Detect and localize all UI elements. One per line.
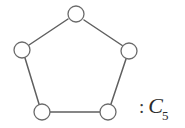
label-colon-separator: : — [139, 96, 144, 117]
vertex-lower-left — [34, 104, 50, 120]
label-graph-symbol: C — [148, 93, 163, 118]
vertex-upper-right — [121, 43, 137, 59]
graph-vertices — [14, 6, 137, 120]
vertex-top — [68, 6, 84, 22]
vertex-upper-left — [14, 42, 30, 58]
vertex-lower-right — [100, 104, 116, 120]
edge-upper-right-to-lower-right — [111, 59, 126, 104]
label-graph-subscript: 5 — [162, 108, 169, 123]
edge-top-to-upper-right — [84, 20, 123, 46]
edge-lower-left-to-upper-left — [25, 58, 39, 104]
graph-label: :C5 — [139, 95, 185, 125]
edge-upper-left-to-top — [29, 19, 68, 45]
graph-figure: :C5 — [0, 0, 185, 128]
graph-edges — [25, 19, 126, 112]
